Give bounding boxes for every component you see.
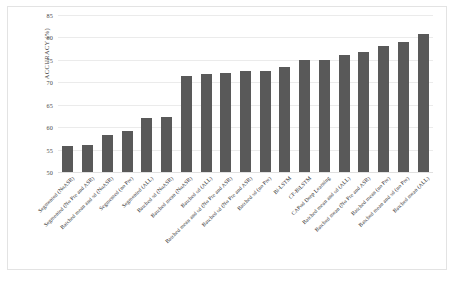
y-axis-tick-labels: 5055606570758085	[0, 15, 58, 172]
bar	[418, 34, 429, 172]
x-axis-tick-label: Batched mean (ALL)	[392, 175, 431, 214]
bar	[62, 146, 73, 172]
bar	[122, 131, 133, 172]
y-axis-tick-label: 65	[46, 101, 53, 108]
bar	[240, 71, 251, 172]
y-axis-tick-label: 60	[46, 124, 53, 131]
y-axis-tick-label: 70	[46, 79, 53, 86]
y-axis-tick-label: 75	[46, 56, 53, 63]
bar	[398, 42, 409, 172]
bar	[82, 145, 93, 172]
bar	[102, 135, 113, 172]
bar	[358, 52, 369, 172]
bar	[319, 60, 330, 172]
bar	[220, 73, 231, 172]
y-axis-tick-label: 55	[46, 146, 53, 153]
bar	[201, 74, 212, 172]
bar	[378, 46, 389, 172]
bar-series	[58, 15, 433, 172]
bar	[279, 67, 290, 172]
bar	[299, 60, 310, 172]
y-axis-tick-label: 50	[46, 169, 53, 176]
bar	[260, 71, 271, 172]
bar	[161, 117, 172, 172]
bar	[141, 118, 152, 172]
bar	[181, 76, 192, 172]
y-axis-tick-label: 80	[46, 34, 53, 41]
x-axis-tick-labels: Segmented (NoASR)Segmented (No Pre and A…	[58, 173, 433, 283]
y-axis-tick-label: 85	[46, 12, 53, 19]
x-axis-tick-label: Batched sd (no Pre)	[236, 175, 272, 211]
bar	[339, 55, 350, 172]
chart-figure: ACCURACY (%) 5055606570758085 Segmented …	[0, 0, 457, 290]
plot-area	[58, 15, 433, 172]
